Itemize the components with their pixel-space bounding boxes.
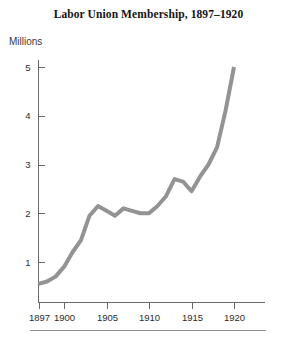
x-tick-label: 1897	[29, 312, 50, 323]
plot-area: 12345 189719001905191019151920	[0, 0, 297, 341]
x-tick-label: 1920	[224, 312, 245, 323]
x-tick-label: 1915	[182, 312, 203, 323]
chart-figure: Labor Union Membership, 1897–1920 Millio…	[0, 0, 297, 341]
y-tick-label: 1	[25, 257, 30, 268]
x-axis-ticks: 189719001905191019151920	[29, 303, 245, 323]
membership-line-series	[39, 67, 235, 284]
y-axis-ticks: 12345	[25, 62, 44, 268]
x-tick-label: 1905	[97, 312, 118, 323]
y-tick-label: 4	[25, 110, 30, 121]
y-tick-label: 5	[25, 62, 30, 73]
y-tick-label: 3	[25, 159, 30, 170]
y-tick-label: 2	[25, 208, 30, 219]
x-tick-label: 1900	[54, 312, 75, 323]
x-tick-label: 1910	[139, 312, 160, 323]
